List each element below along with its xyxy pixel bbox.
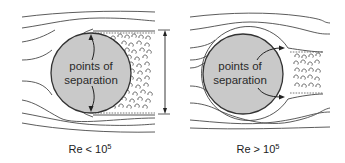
- left-inner-label-line1: points of: [69, 60, 113, 72]
- right-panel-high-reynolds: points of separation Re > 105: [190, 13, 330, 155]
- arrow-right-icon: [279, 46, 285, 51]
- right-caption: Re > 105: [236, 142, 279, 155]
- right-inner-label-line1: points of: [218, 60, 262, 72]
- left-caption: Re < 105: [68, 142, 111, 155]
- right-inner-label-line2: separation: [213, 74, 267, 86]
- right-wake-eddies: [294, 53, 320, 88]
- left-inner-label-line2: separation: [64, 74, 118, 86]
- arrow-right-icon: [279, 95, 285, 100]
- flow-separation-figure: points of separation Re < 105: [0, 0, 345, 163]
- arrow-up-icon: [163, 30, 167, 36]
- arrow-down-icon: [163, 108, 167, 114]
- left-cylinder: [51, 33, 131, 113]
- wake-width-arrow: [158, 30, 170, 114]
- left-panel-low-reynolds: points of separation Re < 105: [22, 11, 170, 155]
